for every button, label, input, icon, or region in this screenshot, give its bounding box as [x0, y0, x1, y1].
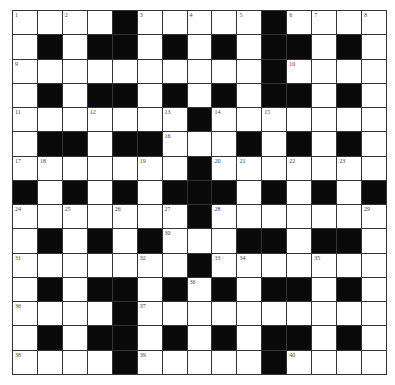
crossword-cell[interactable]: [63, 351, 87, 374]
crossword-cell[interactable]: [13, 326, 37, 349]
crossword-cell[interactable]: [38, 254, 62, 277]
crossword-cell[interactable]: [88, 60, 112, 83]
crossword-cell[interactable]: [362, 229, 386, 252]
crossword-cell[interactable]: [237, 326, 261, 349]
crossword-cell[interactable]: [113, 229, 137, 252]
crossword-cell[interactable]: 38: [13, 351, 37, 374]
crossword-cell[interactable]: [188, 35, 212, 58]
crossword-cell[interactable]: 25: [63, 205, 87, 228]
crossword-cell[interactable]: [262, 157, 286, 180]
crossword-cell[interactable]: [188, 84, 212, 107]
crossword-cell[interactable]: 23: [337, 157, 361, 180]
crossword-cell[interactable]: [237, 351, 261, 374]
crossword-cell[interactable]: [237, 278, 261, 301]
crossword-cell[interactable]: [362, 108, 386, 131]
crossword-cell[interactable]: [337, 181, 361, 204]
crossword-cell[interactable]: [163, 351, 187, 374]
crossword-cell[interactable]: [188, 229, 212, 252]
crossword-cell[interactable]: [337, 205, 361, 228]
crossword-cell[interactable]: 12: [88, 108, 112, 131]
crossword-cell[interactable]: [237, 60, 261, 83]
crossword-cell[interactable]: 33: [212, 254, 236, 277]
crossword-cell[interactable]: [38, 181, 62, 204]
crossword-cell[interactable]: [362, 351, 386, 374]
crossword-cell[interactable]: [212, 11, 236, 34]
crossword-cell[interactable]: 27: [163, 205, 187, 228]
crossword-cell[interactable]: 4: [188, 11, 212, 34]
crossword-cell[interactable]: 5: [237, 11, 261, 34]
crossword-cell[interactable]: [138, 278, 162, 301]
crossword-cell[interactable]: [237, 205, 261, 228]
crossword-cell[interactable]: [312, 108, 336, 131]
crossword-cell[interactable]: 1: [13, 11, 37, 34]
crossword-cell[interactable]: 10: [287, 60, 311, 83]
crossword-cell[interactable]: 21: [237, 157, 261, 180]
crossword-cell[interactable]: 30: [163, 229, 187, 252]
crossword-cell[interactable]: 26: [113, 205, 137, 228]
crossword-cell[interactable]: [38, 302, 62, 325]
crossword-cell[interactable]: [138, 60, 162, 83]
crossword-cell[interactable]: 19: [138, 157, 162, 180]
crossword-cell[interactable]: 32: [138, 254, 162, 277]
crossword-cell[interactable]: [337, 108, 361, 131]
crossword-cell[interactable]: [38, 205, 62, 228]
crossword-cell[interactable]: 34: [237, 254, 261, 277]
crossword-cell[interactable]: [113, 254, 137, 277]
crossword-cell[interactable]: [287, 302, 311, 325]
crossword-cell[interactable]: [312, 157, 336, 180]
crossword-cell[interactable]: 37: [138, 302, 162, 325]
crossword-cell[interactable]: [88, 11, 112, 34]
crossword-cell[interactable]: [237, 84, 261, 107]
crossword-cell[interactable]: [63, 157, 87, 180]
crossword-cell[interactable]: [163, 254, 187, 277]
crossword-cell[interactable]: [138, 205, 162, 228]
crossword-cell[interactable]: 31: [13, 254, 37, 277]
crossword-cell[interactable]: 24: [13, 205, 37, 228]
crossword-cell[interactable]: 18: [38, 157, 62, 180]
crossword-cell[interactable]: [13, 35, 37, 58]
crossword-cell[interactable]: [138, 84, 162, 107]
crossword-cell[interactable]: [212, 229, 236, 252]
crossword-cell[interactable]: [362, 254, 386, 277]
crossword-cell[interactable]: [212, 351, 236, 374]
crossword-cell[interactable]: [63, 326, 87, 349]
crossword-cell[interactable]: [337, 302, 361, 325]
crossword-cell[interactable]: [362, 35, 386, 58]
crossword-cell[interactable]: [88, 205, 112, 228]
crossword-cell[interactable]: [88, 181, 112, 204]
crossword-cell[interactable]: [38, 11, 62, 34]
crossword-cell[interactable]: [312, 132, 336, 155]
crossword-cell[interactable]: [237, 181, 261, 204]
crossword-cell[interactable]: 3: [138, 11, 162, 34]
crossword-cell[interactable]: [188, 326, 212, 349]
crossword-cell[interactable]: [287, 108, 311, 131]
crossword-cell[interactable]: 2: [63, 11, 87, 34]
crossword-cell[interactable]: [13, 278, 37, 301]
crossword-cell[interactable]: [138, 326, 162, 349]
crossword-cell[interactable]: [212, 60, 236, 83]
crossword-cell[interactable]: [63, 302, 87, 325]
crossword-cell[interactable]: [113, 157, 137, 180]
crossword-cell[interactable]: 36: [13, 302, 37, 325]
crossword-cell[interactable]: [163, 11, 187, 34]
crossword-cell[interactable]: [312, 84, 336, 107]
crossword-cell[interactable]: [63, 254, 87, 277]
crossword-cell[interactable]: [88, 254, 112, 277]
crossword-cell[interactable]: [188, 302, 212, 325]
crossword-cell[interactable]: [337, 60, 361, 83]
crossword-cell[interactable]: [312, 35, 336, 58]
crossword-cell[interactable]: 16: [163, 132, 187, 155]
crossword-cell[interactable]: [63, 84, 87, 107]
crossword-cell[interactable]: 17: [13, 157, 37, 180]
crossword-cell[interactable]: 29: [362, 205, 386, 228]
crossword-cell[interactable]: [188, 351, 212, 374]
crossword-cell[interactable]: [63, 229, 87, 252]
crossword-cell[interactable]: 9: [13, 60, 37, 83]
crossword-cell[interactable]: 8: [362, 11, 386, 34]
crossword-cell[interactable]: [262, 205, 286, 228]
crossword-cell[interactable]: [138, 35, 162, 58]
crossword-cell[interactable]: 7: [312, 11, 336, 34]
crossword-cell[interactable]: [287, 181, 311, 204]
crossword-cell[interactable]: 39: [138, 351, 162, 374]
crossword-cell[interactable]: 15: [262, 108, 286, 131]
